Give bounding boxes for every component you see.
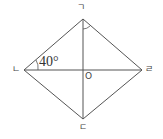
vertex-label-right: ㄹ bbox=[145, 65, 153, 74]
rhombus-diagram bbox=[0, 0, 163, 139]
angle-arc-left bbox=[36, 60, 38, 70]
vertex-label-top: ㄱ bbox=[77, 3, 85, 12]
vertex-label-left: ㄴ bbox=[12, 65, 20, 74]
center-label: O bbox=[85, 72, 92, 81]
angle-label: 40° bbox=[39, 55, 59, 69]
vertex-label-bottom: ㄷ bbox=[79, 123, 87, 132]
angle-arc-top bbox=[83, 26, 90, 29]
